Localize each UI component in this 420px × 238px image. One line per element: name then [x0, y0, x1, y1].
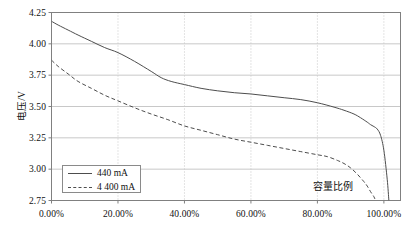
legend-entry-0: 440 mA: [63, 166, 140, 180]
legend-label-0: 440 mA: [97, 168, 128, 178]
y-tick-label: 2.75: [14, 196, 46, 206]
x-tick-label: 80.00%: [302, 209, 332, 219]
legend-label-1: 4 400 mA: [97, 182, 135, 192]
x-tick-label: 60.00%: [236, 209, 266, 219]
y-tick-label: 4.00: [14, 39, 46, 49]
x-tick-label: 20.00%: [103, 209, 133, 219]
x-tick-label: 40.00%: [169, 209, 199, 219]
y-axis-title: 电压/V: [14, 91, 28, 121]
battery-discharge-chart: 2.753.003.253.503.754.004.25 0.00%20.00%…: [0, 0, 420, 238]
y-tick-label: 3.75: [14, 70, 46, 80]
x-tick-label: 100.00%: [367, 209, 402, 219]
plot-area: [0, 0, 420, 238]
y-tick-label: 4.25: [14, 8, 46, 18]
chart-legend: 440 mA 4 400 mA: [62, 165, 141, 193]
legend-line-dashed-icon: [68, 182, 92, 192]
x-axis-title: 容量比例: [313, 178, 353, 193]
horizontal-gridlines: [52, 44, 401, 169]
x-tick-label: 0.00%: [39, 209, 64, 219]
legend-line-solid-icon: [68, 168, 92, 178]
y-tick-label: 3.25: [14, 133, 46, 143]
y-tick-label: 3.00: [14, 164, 46, 174]
legend-entry-1: 4 400 mA: [63, 180, 140, 194]
